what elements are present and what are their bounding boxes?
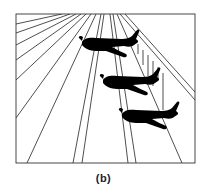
diagram-figure xyxy=(0,0,207,196)
figure-frame xyxy=(16,14,195,163)
airplane-silhouette-2 xyxy=(100,68,161,96)
airplane-silhouette-1 xyxy=(79,30,140,58)
airplane-silhouette-3 xyxy=(119,102,180,130)
figure-caption: (b) xyxy=(0,172,207,184)
perspective-lines xyxy=(16,14,195,163)
